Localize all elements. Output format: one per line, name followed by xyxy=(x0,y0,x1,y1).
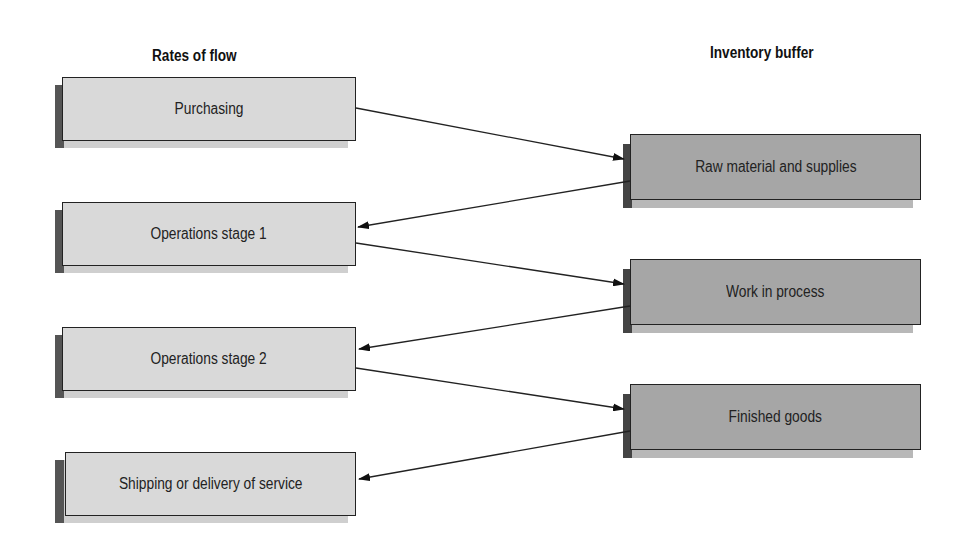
arrow-purchasing-to-raw xyxy=(356,108,624,159)
arrow-finished-to-shipping xyxy=(359,431,630,479)
flow-arrows xyxy=(0,0,967,543)
arrow-wip-to-op2 xyxy=(359,306,630,349)
arrow-op2-to-finished xyxy=(356,368,624,409)
arrow-raw-to-op1 xyxy=(358,181,630,227)
arrow-op1-to-wip xyxy=(356,243,624,284)
